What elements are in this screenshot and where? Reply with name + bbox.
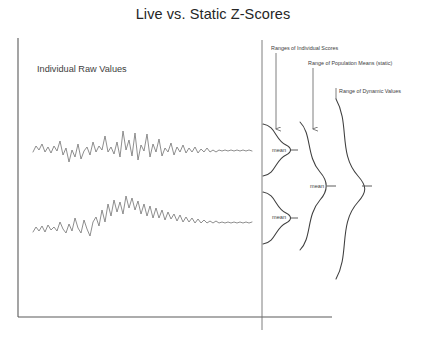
individual-raw-values-label: Individual Raw Values bbox=[37, 65, 127, 74]
figure-drawing bbox=[0, 0, 426, 338]
annotation-dynamic-values: Range of Dynamic Values bbox=[339, 89, 401, 94]
mean-label-upper-individual: mean bbox=[272, 148, 286, 154]
mean-label-population: mean bbox=[310, 184, 324, 190]
curve-dynamic-values bbox=[336, 99, 365, 279]
raw-series-1 bbox=[33, 131, 252, 162]
mean-label-lower-individual: mean bbox=[272, 215, 286, 221]
raw-series-2 bbox=[33, 196, 252, 236]
figure-canvas: Live vs. Static Z-Scores Individual Raw … bbox=[0, 0, 426, 338]
page-title: Live vs. Static Z-Scores bbox=[0, 7, 426, 22]
annotation-population-means: Range of Population Means (static) bbox=[308, 61, 392, 66]
annotation-individual-ranges: Ranges of Individual Scores bbox=[271, 46, 338, 51]
